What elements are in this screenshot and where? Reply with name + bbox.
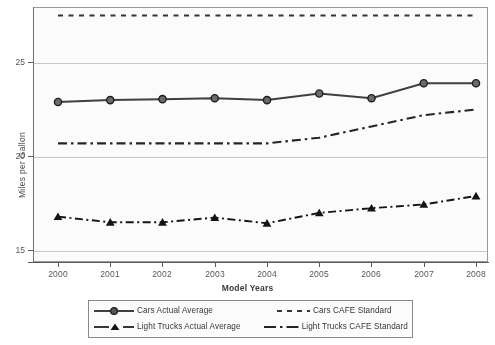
legend-label: Cars CAFE Standard <box>313 305 392 317</box>
longdash-dot-swatch <box>258 321 300 333</box>
legend-item-light-trucks-actual-average[interactable]: Light Trucks Actual Average <box>93 321 258 333</box>
solid-circle-marker-swatch <box>93 305 135 317</box>
legend-label: Cars Actual Average <box>137 305 213 317</box>
legend-label: Light Trucks Actual Average <box>137 321 241 333</box>
chart-container: 25 20 15 Miles per Gallon 2000 2001 2002… <box>0 0 495 345</box>
legend-item-cars-actual-average[interactable]: Cars Actual Average <box>93 305 269 317</box>
legend-item-light-trucks-cafe-standard[interactable]: Light Trucks CAFE Standard <box>258 321 408 333</box>
legend-label: Light Trucks CAFE Standard <box>302 321 408 333</box>
dashed-swatch <box>269 305 311 317</box>
series-layer <box>0 0 495 345</box>
series-cars-actual-average <box>54 80 479 106</box>
legend-row-2: Light Trucks Actual Average Light Trucks… <box>93 319 408 335</box>
legend-item-cars-cafe-standard[interactable]: Cars CAFE Standard <box>269 305 392 317</box>
legend: Cars Actual Average Cars CAFE Standard L… <box>88 300 413 338</box>
series-light-trucks-cafe-standard <box>58 110 476 144</box>
dashdot-triangle-marker-swatch <box>93 321 135 333</box>
series-light-trucks-actual-average <box>54 192 481 227</box>
legend-row-1: Cars Actual Average Cars CAFE Standard <box>93 303 408 319</box>
